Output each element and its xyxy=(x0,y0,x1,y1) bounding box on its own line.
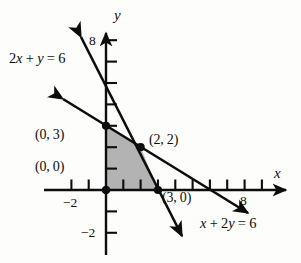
eq1-coef: 2 xyxy=(9,50,16,66)
x-tick-label-negative-2: −2 xyxy=(63,196,77,210)
vertex-dot-2-2 xyxy=(137,143,145,151)
eq1-operator: + xyxy=(22,50,37,66)
vertex-dot-0-3 xyxy=(102,122,110,130)
eq2-rhs: = 6 xyxy=(234,215,256,231)
y-tick-label-8: 8 xyxy=(89,34,96,48)
graph-figure: y x 8 −2 −2 8 (0, 3) (0, 0) (2, 2) (3, 0… xyxy=(0,0,301,263)
x-axis-label: x xyxy=(274,166,280,181)
point-label-2-2: (2, 2) xyxy=(149,133,178,147)
x-axis-ticks xyxy=(71,180,262,191)
point-label-3-0: (3, 0) xyxy=(162,191,191,205)
equation-label-2x-plus-y: 2x + y = 6 xyxy=(9,51,65,66)
point-label-0-3: (0, 3) xyxy=(35,128,64,142)
y-tick-label-negative-2: −2 xyxy=(81,226,95,240)
vertex-dot-3-0 xyxy=(154,186,162,194)
vertex-dot-0-0 xyxy=(102,186,111,195)
line-x-plus-2y-equals-6 xyxy=(63,99,248,213)
eq1-rhs: = 6 xyxy=(43,50,65,66)
eq2-operator: + 2 xyxy=(206,215,228,231)
equation-label-x-plus-2y: x + 2y = 6 xyxy=(200,216,256,231)
point-label-0-0: (0, 0) xyxy=(35,160,64,174)
x-tick-label-8: 8 xyxy=(240,194,247,208)
y-axis-label: y xyxy=(114,8,120,23)
